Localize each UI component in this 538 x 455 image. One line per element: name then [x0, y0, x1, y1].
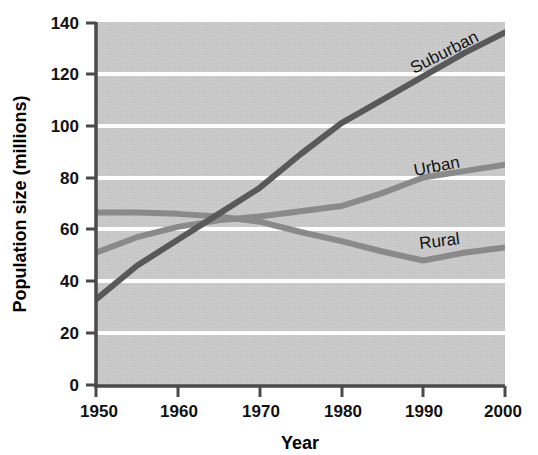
y-tick-label-0: 0	[70, 376, 79, 395]
x-tick-label-1970: 1970	[242, 402, 280, 421]
y-tick-label-20: 20	[60, 324, 79, 343]
x-tick-labels: 1950 1960 1970 1980 1990 2000	[80, 402, 522, 421]
y-tick-label-80: 80	[60, 169, 79, 188]
y-tick-label-140: 140	[51, 14, 79, 33]
x-tick-label-1950: 1950	[80, 402, 118, 421]
x-tick-label-1980: 1980	[324, 402, 362, 421]
chart-figure: 140 120 100 80 60 40 20 0 1950 1960 1970…	[0, 0, 538, 455]
population-line-chart: 140 120 100 80 60 40 20 0 1950 1960 1970…	[0, 0, 538, 455]
x-tick-label-2000: 2000	[484, 402, 522, 421]
y-tick-label-40: 40	[60, 272, 79, 291]
x-tick-label-1960: 1960	[160, 402, 198, 421]
x-axis-title: Year	[281, 433, 319, 453]
x-tick-label-1990: 1990	[405, 402, 443, 421]
plot-area-background	[96, 22, 505, 385]
y-tick-labels: 140 120 100 80 60 40 20 0	[51, 14, 79, 395]
y-tick-label-60: 60	[60, 220, 79, 239]
y-tick-label-100: 100	[51, 117, 79, 136]
y-tick-label-120: 120	[51, 65, 79, 84]
y-axis-title: Population size (millions)	[10, 95, 30, 312]
